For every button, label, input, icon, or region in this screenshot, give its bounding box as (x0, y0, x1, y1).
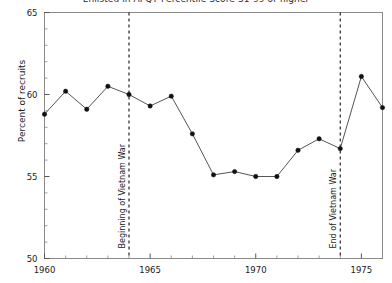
svg-text:65: 65 (27, 8, 38, 18)
y-axis-tick-labels: 50556065 (27, 8, 38, 264)
svg-text:55: 55 (27, 172, 38, 182)
chart-figure: Enlisted in AFQT Percentile Score 31-99 … (0, 0, 392, 283)
svg-text:Beginning of Vietnam War: Beginning of Vietnam War (118, 143, 127, 248)
svg-text:1975: 1975 (351, 265, 373, 275)
x-axis-tick-labels: 1960196519701975 (34, 265, 373, 275)
svg-text:50: 50 (27, 254, 38, 264)
plot-area: 50556065 1960196519701975 Beginning of V… (0, 0, 392, 283)
svg-text:1970: 1970 (245, 265, 267, 275)
svg-text:1965: 1965 (139, 265, 161, 275)
svg-text:60: 60 (27, 90, 38, 100)
svg-text:1960: 1960 (34, 265, 56, 275)
svg-text:End of Vietnam War: End of Vietnam War (329, 168, 338, 248)
